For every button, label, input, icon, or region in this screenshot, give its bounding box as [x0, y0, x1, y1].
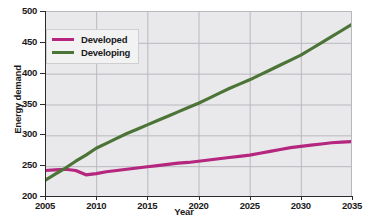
y-tick-label: 400 — [0, 67, 37, 78]
chart-legend: DevelopedDeveloping — [46, 29, 139, 64]
y-tick-mark — [40, 42, 45, 43]
y-tick-mark — [40, 134, 45, 135]
y-tick-label: 300 — [0, 128, 37, 139]
y-tick-label: 450 — [0, 36, 37, 47]
legend-label: Developed — [81, 34, 127, 45]
y-tick-mark — [40, 165, 45, 166]
energy-demand-line-chart: Energy demand 500450400350300250200 2005… — [0, 0, 368, 221]
y-tick-label: 500 — [0, 5, 37, 16]
legend-swatch-icon — [52, 38, 74, 41]
y-tick-mark — [40, 104, 45, 105]
legend-swatch-icon — [52, 51, 74, 54]
legend-item-developing: Developing — [52, 46, 130, 59]
y-tick-mark — [40, 11, 45, 12]
y-tick-mark — [40, 73, 45, 74]
y-tick-label: 250 — [0, 159, 37, 170]
legend-label: Developing — [81, 47, 130, 58]
y-tick-label: 350 — [0, 98, 37, 109]
legend-item-developed: Developed — [52, 33, 130, 46]
x-axis-title: Year — [0, 206, 368, 217]
